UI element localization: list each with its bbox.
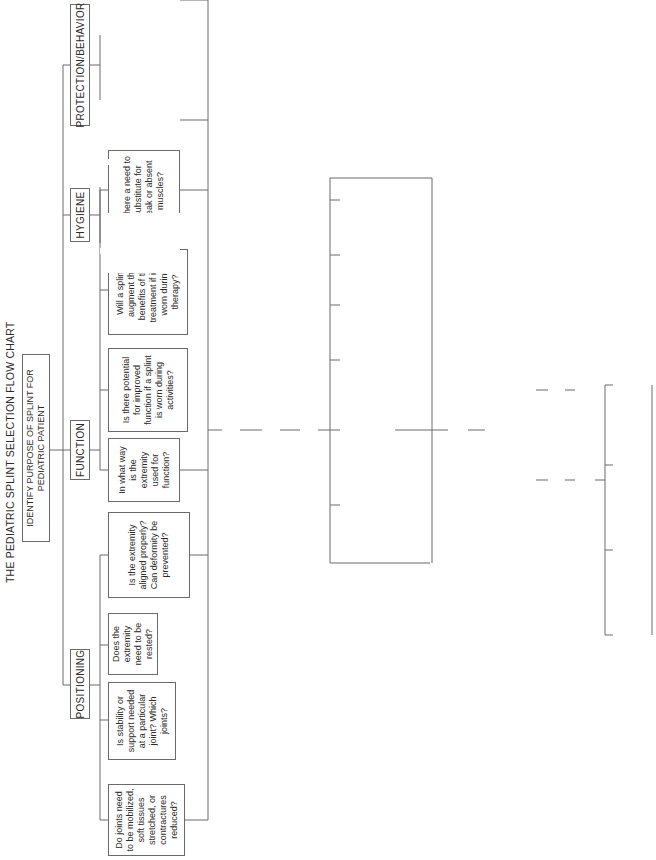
question-text: Is there potential for improved function… — [121, 352, 176, 428]
root-label: IDENTIFY PURPOSE OF SPLINT FOR PEDIATRIC… — [25, 358, 47, 538]
question-function-2: Is there potential for improved function… — [108, 348, 188, 432]
spacer — [108, 265, 110, 271]
spacer — [108, 213, 180, 273]
spacer — [108, 159, 110, 165]
category-hygiene: HYGIENE — [70, 188, 90, 242]
category-function: FUNCTION — [70, 420, 90, 480]
root-node: IDENTIFY PURPOSE OF SPLINT FOR PEDIATRIC… — [22, 354, 50, 542]
question-function-1: In what way is the extremity used for fu… — [108, 438, 180, 502]
category-label: HYGIENE — [75, 191, 86, 238]
question-positioning-2: Is stability or support needed at a part… — [108, 682, 176, 760]
question-text: Is stability or support needed at a part… — [115, 686, 170, 756]
question-positioning-1: Do joints need to be mobilized, soft tis… — [108, 784, 185, 856]
category-label: POSITIONING — [75, 650, 86, 719]
category-positioning: POSITIONING — [70, 649, 90, 719]
category-protection-behavior: PROTECTION/BEHAVIOR — [70, 4, 90, 126]
spacer — [195, 266, 197, 272]
spacer — [108, 138, 110, 144]
question-text: Do joints need to be mobilized, soft tis… — [114, 788, 180, 852]
connector-lines — [0, 0, 656, 860]
question-text: Does the extremity need to be rested? — [111, 617, 155, 671]
category-label: PROTECTION/BEHAVIOR — [75, 3, 86, 128]
flowchart-canvas: THE PEDIATRIC SPLINT SELECTION FLOW CHAR… — [0, 0, 656, 860]
category-label: FUNCTION — [75, 423, 86, 477]
chart-title: THE PEDIATRIC SPLINT SELECTION FLOW CHAR… — [4, 322, 16, 583]
question-positioning-4: Is the extremity aligned properly? Can d… — [108, 512, 190, 598]
spacer — [0, 854, 2, 860]
spacer — [100, 248, 102, 254]
question-positioning-3: Does the extremity need to be rested? — [108, 613, 158, 675]
question-text: In what way is the extremity used for fu… — [117, 442, 172, 498]
question-text: Is the extremity aligned properly? Can d… — [127, 516, 171, 594]
